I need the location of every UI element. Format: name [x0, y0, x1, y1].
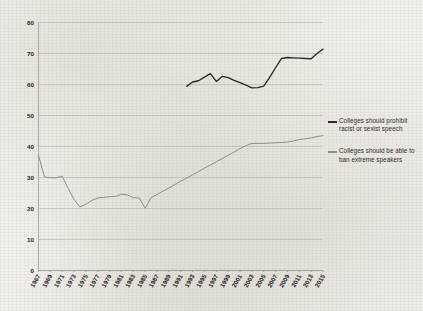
x-tick-label: 1989	[159, 273, 172, 289]
x-tick-label: 1999	[218, 273, 231, 289]
y-tick-label: 30	[27, 174, 34, 181]
x-tick-label: 1979	[100, 273, 113, 289]
x-tick-label: 1971	[52, 273, 65, 289]
x-tick-label: 1985	[135, 273, 148, 289]
x-tick-label: 1977	[88, 273, 101, 289]
x-tick-label: 2001	[230, 273, 243, 289]
x-tick-label: 2013	[301, 273, 314, 289]
y-tick-label: 80	[27, 19, 34, 26]
series-line-1	[187, 49, 323, 88]
y-tick-label: 40	[27, 143, 34, 150]
legend-swatch-black-line	[328, 121, 337, 123]
legend-swatch-gray-line	[328, 151, 337, 153]
x-tick-label: 2009	[278, 273, 291, 289]
y-tick-label: 10	[27, 236, 34, 243]
x-tick-label: 2005	[254, 273, 267, 289]
x-tick-label: 1997	[206, 273, 219, 289]
x-tick-label: 1975	[76, 273, 89, 289]
legend-label: Colleges should prohibit racist or sexis…	[339, 117, 420, 133]
x-tick-label: 2007	[266, 273, 279, 289]
x-tick-label: 1981	[112, 273, 125, 289]
x-tick-label: 1995	[195, 273, 208, 289]
x-tick-label: 2011	[290, 273, 303, 289]
x-tick-label: 1969	[40, 273, 53, 289]
x-tick-label: 1983	[123, 273, 136, 289]
y-tick-label: 70	[27, 50, 34, 57]
line-chart: 01020304050607080 1967196919711973197519…	[0, 0, 423, 311]
data-series-lines	[39, 49, 324, 208]
y-tick-label: 60	[27, 81, 34, 88]
y-tick-label: 20	[27, 205, 34, 212]
x-axis-tick-labels: 1967196919711973197519771979198119831985…	[29, 273, 327, 289]
y-axis-tick-labels: 01020304050607080	[27, 19, 34, 274]
x-tick-label: 2015	[313, 273, 326, 289]
y-tick-label: 50	[27, 112, 34, 119]
chart-legend: Colleges should prohibit racist or sexis…	[328, 117, 420, 178]
x-tick-label: 1967	[29, 273, 42, 289]
x-tick-label: 1987	[147, 273, 160, 289]
legend-label: Colleges should be able to ban extreme s…	[339, 147, 420, 163]
x-tick-label: 1991	[171, 273, 184, 289]
legend-item-prohibit-racist-sexist-speech: Colleges should prohibit racist or sexis…	[328, 117, 420, 133]
y-tick-label: 0	[31, 267, 35, 274]
x-tick-label: 1993	[183, 273, 196, 289]
x-tick-label: 2003	[242, 273, 255, 289]
legend-item-ban-extreme-speakers: Colleges should be able to ban extreme s…	[328, 147, 420, 163]
x-tick-label: 1973	[64, 273, 77, 289]
